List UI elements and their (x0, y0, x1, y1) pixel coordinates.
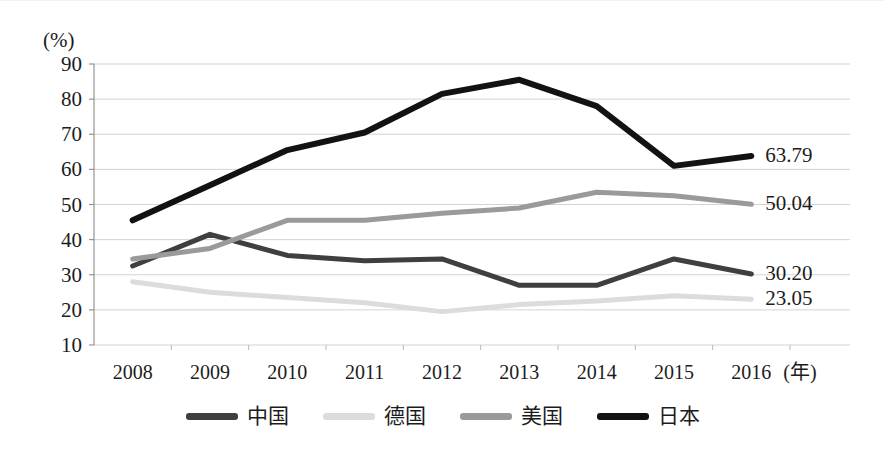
plot-area (0, 0, 885, 457)
x-axis-tick-2014: 2014 (567, 362, 627, 382)
legend-swatch-icon-美国 (460, 413, 512, 420)
end-label-美国: 50.04 (765, 193, 812, 214)
x-axis-tick-2016: 2016 (721, 362, 781, 382)
legend-item-德国[interactable]: 德国 (323, 406, 426, 427)
series-line-美国 (133, 192, 752, 259)
x-axis-tick-2009: 2009 (180, 362, 240, 382)
legend-label-中国: 中国 (247, 406, 289, 427)
end-label-德国: 23.05 (765, 288, 812, 309)
x-axis-tick-2008: 2008 (103, 362, 163, 382)
x-axis-tick-2012: 2012 (412, 362, 472, 382)
legend-label-日本: 日本 (658, 406, 700, 427)
legend-item-美国[interactable]: 美国 (460, 406, 563, 427)
legend-label-美国: 美国 (521, 406, 563, 427)
legend-swatch-icon-日本 (597, 413, 649, 420)
series-line-德国 (133, 282, 752, 312)
end-label-日本: 63.79 (765, 145, 812, 166)
end-label-中国: 30.20 (765, 263, 812, 284)
x-axis-tick-2010: 2010 (257, 362, 317, 382)
x-axis-tick-2011: 2011 (335, 362, 395, 382)
legend-label-德国: 德国 (384, 406, 426, 427)
legend-item-日本[interactable]: 日本 (597, 406, 700, 427)
x-axis-tick-2013: 2013 (489, 362, 549, 382)
series-line-日本 (133, 80, 752, 221)
chart-legend: 中国德国美国日本 (0, 406, 885, 427)
legend-swatch-icon-中国 (186, 413, 238, 420)
x-axis-unit-label: (年) (783, 362, 816, 382)
legend-swatch-icon-德国 (323, 413, 375, 420)
x-axis-tick-2015: 2015 (644, 362, 704, 382)
legend-item-中国[interactable]: 中国 (186, 406, 289, 427)
line-chart: (%) 908070605040302010 20082009201020112… (0, 0, 885, 457)
